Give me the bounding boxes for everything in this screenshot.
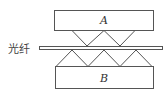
- plate-a-label: A: [99, 14, 108, 27]
- microbend-sensor-diagram: A 光纤 B: [0, 0, 167, 93]
- bottom-teeth-zigzag: [56, 50, 152, 67]
- fiber-label: 光纤: [8, 42, 30, 56]
- plate-b-label: B: [99, 72, 108, 85]
- top-plate-a: A: [55, 11, 154, 31]
- fiber-rect: [40, 47, 163, 50]
- bottom-plate-b: B: [56, 67, 154, 89]
- top-teeth-zigzag: [72, 31, 135, 47]
